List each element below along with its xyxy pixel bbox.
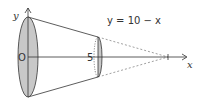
lower-dashed-extension: [98, 57, 168, 77]
y-axis-label: y: [12, 10, 19, 21]
equation-label: y = 10 − x: [107, 15, 161, 26]
frustum-diagram: y x O 5 y = 10 − x: [0, 0, 198, 99]
upper-slant-line: [28, 17, 98, 37]
lower-slant-line: [28, 77, 98, 97]
origin-label: O: [18, 52, 26, 63]
upper-dashed-extension: [98, 37, 168, 57]
x-axis-label: x: [187, 59, 193, 70]
tick-label-5: 5: [87, 52, 93, 63]
